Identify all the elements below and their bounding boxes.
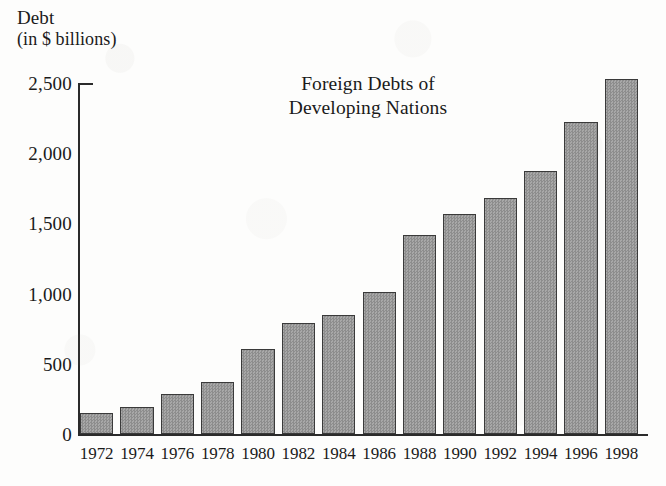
x-axis-tick-label: 1978 [198, 445, 238, 462]
x-axis-tick-label: 1974 [117, 445, 157, 462]
x-axis-tick-labels: 1972197419761978198019821984198619881990… [0, 0, 666, 486]
x-axis-tick-label: 1996 [561, 445, 601, 462]
x-axis-tick-label: 1976 [157, 445, 197, 462]
x-axis-tick-label: 1986 [359, 445, 399, 462]
x-axis-tick-label: 1998 [601, 445, 641, 462]
x-axis-tick-label: 1990 [440, 445, 480, 462]
x-axis-tick-label: 1982 [278, 445, 318, 462]
x-axis-tick-label: 1992 [480, 445, 520, 462]
x-axis-tick-label: 1972 [77, 445, 117, 462]
bar-chart: Debt (in $ billions) Foreign Debts of De… [0, 0, 666, 486]
x-axis-tick-label: 1984 [319, 445, 359, 462]
x-axis-tick-label: 1994 [521, 445, 561, 462]
x-axis-tick-label: 1980 [238, 445, 278, 462]
x-axis-tick-label: 1988 [400, 445, 440, 462]
